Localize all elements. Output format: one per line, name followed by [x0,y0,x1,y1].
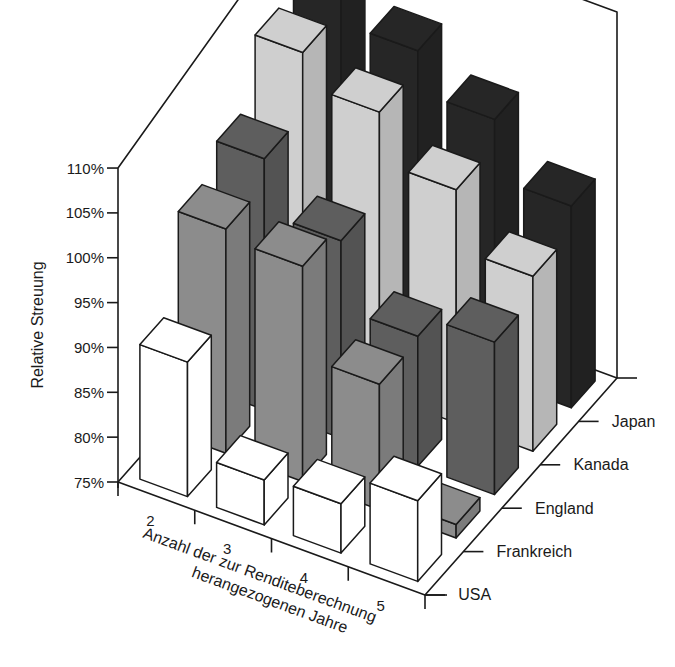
bar-usa-2 [140,318,211,497]
3d-bar-chart: 75%80%85%90%95%100%105%110%Relative Stre… [0,0,675,667]
chart-container: 75%80%85%90%95%100%105%110%Relative Stre… [0,0,675,667]
y-tick-label: 85% [74,384,104,401]
depth-tick-label: Frankreich [497,543,573,560]
depth-tick-label: England [535,500,594,517]
bars [140,0,595,581]
bar-england-5 [447,298,518,495]
y-tick-label: 90% [74,339,104,356]
bar-frankreich-3 [255,222,326,482]
bar-usa-4 [293,459,364,553]
y-tick-label: 75% [74,474,104,491]
y-tick-label: 95% [74,294,104,311]
depth-tick-label: Japan [612,413,656,430]
y-tick-label: 105% [66,204,104,221]
depth-tick-label: Kanada [573,456,628,473]
y-axis: 75%80%85%90%95%100%105%110%Relative Stre… [29,160,118,491]
depth-tick-label: USA [458,586,491,603]
y-axis-label: Relative Streuung [29,261,46,388]
bar-usa-5 [370,456,441,581]
y-tick-label: 100% [66,249,104,266]
y-tick-label: 110% [67,160,104,177]
y-tick-label: 80% [74,429,104,446]
